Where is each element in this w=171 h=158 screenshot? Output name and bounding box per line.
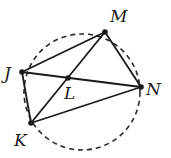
point-J	[19, 69, 25, 75]
point-N	[138, 84, 144, 90]
segment-JM	[22, 32, 105, 72]
segment-KJ	[22, 72, 31, 123]
segment-JN	[22, 72, 141, 87]
point-M	[102, 29, 108, 35]
segment-MN	[105, 32, 141, 87]
label-N: N	[145, 79, 162, 99]
label-J: J	[1, 63, 12, 83]
geometry-diagram: J M N K L	[0, 0, 171, 158]
point-L	[65, 75, 71, 81]
label-M: M	[109, 6, 128, 26]
circumscribed-circle	[24, 34, 140, 150]
label-L: L	[63, 83, 75, 103]
segment-NK	[31, 87, 141, 123]
point-K	[28, 120, 34, 126]
label-K: K	[13, 130, 28, 150]
